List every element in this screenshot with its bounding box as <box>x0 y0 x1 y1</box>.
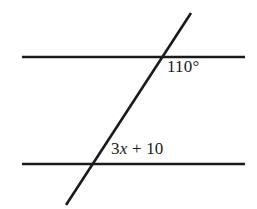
upper-angle-label: 110° <box>167 58 199 75</box>
geometry-figure: 110° 3x + 10 <box>0 0 257 209</box>
lower-angle-label: 3x + 10 <box>111 140 164 157</box>
lower-angle-coefficient: 3 <box>111 139 120 158</box>
figure-background <box>0 0 257 209</box>
geometry-canvas <box>0 0 257 209</box>
lower-angle-constant: + 10 <box>127 139 163 158</box>
